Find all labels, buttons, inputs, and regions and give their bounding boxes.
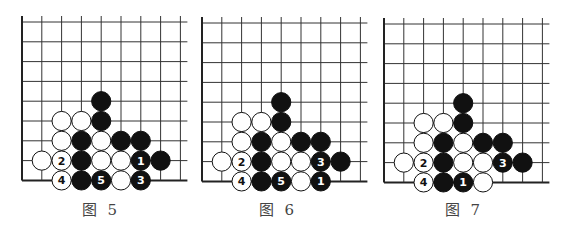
black-stone xyxy=(434,173,453,192)
black-stone-icon xyxy=(272,112,291,131)
black-stone xyxy=(252,132,271,151)
white-stone-move-2: 2 xyxy=(232,152,251,171)
black-stone xyxy=(513,153,532,172)
white-stone-icon xyxy=(454,133,473,152)
white-stone-icon xyxy=(232,132,251,151)
black-stone-icon xyxy=(252,132,271,151)
white-stone xyxy=(454,133,473,152)
black-stone xyxy=(252,152,271,171)
white-stone-icon xyxy=(454,153,473,172)
white-stone-icon xyxy=(32,151,51,170)
move-number: 4 xyxy=(238,175,246,188)
white-stone-move-4: 4 xyxy=(232,172,251,191)
black-stone xyxy=(454,113,473,132)
black-stone xyxy=(434,133,453,152)
white-stone xyxy=(52,111,71,130)
white-stone-icon xyxy=(92,151,111,170)
white-stone-icon xyxy=(111,151,130,170)
white-stone-icon xyxy=(72,111,91,130)
move-number: 4 xyxy=(58,174,66,187)
go-board-figure-6: 23451 xyxy=(194,0,384,195)
white-stone-icon xyxy=(291,172,310,191)
black-stone xyxy=(92,111,111,130)
black-stone-icon xyxy=(72,151,91,170)
white-stone xyxy=(232,132,251,151)
black-stone-icon xyxy=(131,131,150,150)
black-stone-icon xyxy=(92,111,111,130)
go-board-grid: 2341 xyxy=(376,0,566,195)
white-stone xyxy=(473,173,492,192)
black-stone-icon xyxy=(434,133,453,152)
white-stone xyxy=(32,151,51,170)
black-stone-icon xyxy=(272,93,291,112)
move-number: 1 xyxy=(459,176,467,189)
white-stone xyxy=(414,133,433,152)
black-stone xyxy=(72,151,91,170)
black-stone-icon xyxy=(434,173,453,192)
black-stone-icon xyxy=(111,131,130,150)
white-stone-icon xyxy=(291,152,310,171)
move-number: 4 xyxy=(420,176,428,189)
white-stone-icon xyxy=(272,132,291,151)
black-stone xyxy=(331,152,350,171)
black-stone-icon xyxy=(454,113,473,132)
white-stone-icon xyxy=(473,173,492,192)
move-number: 2 xyxy=(58,155,66,168)
white-stone-icon xyxy=(414,133,433,152)
black-stone-icon xyxy=(473,133,492,152)
black-stone xyxy=(311,132,330,151)
black-stone-icon xyxy=(291,132,310,151)
black-stone-icon xyxy=(311,132,330,151)
white-stone-icon xyxy=(52,131,71,150)
white-stone-icon xyxy=(434,113,453,132)
move-number: 1 xyxy=(317,175,325,188)
white-stone-icon xyxy=(92,131,111,150)
black-stone-move-1: 1 xyxy=(454,173,473,192)
black-stone-icon xyxy=(331,152,350,171)
black-stone-icon xyxy=(151,151,170,170)
white-stone xyxy=(72,111,91,130)
black-stone xyxy=(291,132,310,151)
move-number: 3 xyxy=(317,156,325,169)
white-stone-icon xyxy=(473,153,492,172)
black-stone-icon xyxy=(454,94,473,113)
move-number: 2 xyxy=(420,157,428,170)
black-stone-icon xyxy=(72,131,91,150)
white-stone xyxy=(111,151,130,170)
black-stone xyxy=(454,94,473,113)
white-stone-move-4: 4 xyxy=(52,171,71,190)
black-stone-icon xyxy=(493,133,512,152)
white-stone xyxy=(52,131,71,150)
white-stone xyxy=(272,132,291,151)
black-stone xyxy=(252,172,271,191)
black-stone-icon xyxy=(434,153,453,172)
go-board-figure-7: 2341 xyxy=(376,0,566,195)
white-stone-icon xyxy=(212,152,231,171)
black-stone xyxy=(272,93,291,112)
white-stone xyxy=(434,113,453,132)
black-stone-move-3: 3 xyxy=(493,153,512,172)
black-stone xyxy=(72,131,91,150)
figure-caption-7: 图 7 xyxy=(384,198,544,219)
white-stone xyxy=(92,151,111,170)
white-stone xyxy=(291,152,310,171)
black-stone xyxy=(92,92,111,111)
white-stone-icon xyxy=(394,153,413,172)
white-stone-move-2: 2 xyxy=(414,153,433,172)
black-stone-icon xyxy=(92,92,111,111)
black-stone-move-1: 1 xyxy=(131,151,150,170)
black-stone xyxy=(111,131,130,150)
go-board-grid: 23451 xyxy=(194,0,384,195)
white-stone-move-2: 2 xyxy=(52,151,71,170)
white-stone-icon xyxy=(272,152,291,171)
white-stone-move-4: 4 xyxy=(414,173,433,192)
white-stone-icon xyxy=(52,111,71,130)
white-stone xyxy=(212,152,231,171)
white-stone xyxy=(291,172,310,191)
white-stone xyxy=(232,112,251,131)
move-number: 3 xyxy=(499,157,507,170)
black-stone-move-5: 5 xyxy=(272,172,291,191)
white-stone xyxy=(414,113,433,132)
black-stone xyxy=(72,171,91,190)
black-stone-icon xyxy=(252,152,271,171)
